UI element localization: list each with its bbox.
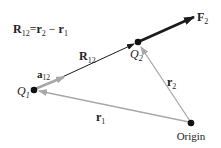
point-origin-dot <box>188 120 195 127</box>
point-q1-dot <box>31 87 38 94</box>
point-q2-dot <box>135 39 142 46</box>
vector-R12-label: R12 <box>79 49 96 65</box>
vector-r2-arrow <box>141 47 190 121</box>
point-origin-label: Origin <box>177 130 206 142</box>
equation-label: R12=r2−r1 <box>13 22 68 38</box>
vector-diagram: R12=r2−r1 R12 a12 F2 Q1 Q2 r2 r1 Origin <box>0 0 221 148</box>
point-q2-label: Q2 <box>130 47 143 63</box>
vector-a12-label: a12 <box>37 68 50 82</box>
vector-F2-arrow <box>138 17 194 42</box>
vector-F2-label: F2 <box>197 10 208 26</box>
point-q1-label: Q1 <box>17 84 30 100</box>
vector-r2-label: r2 <box>167 75 176 91</box>
vector-r1-arrow <box>39 91 189 122</box>
vector-r1-label: r1 <box>96 110 105 126</box>
